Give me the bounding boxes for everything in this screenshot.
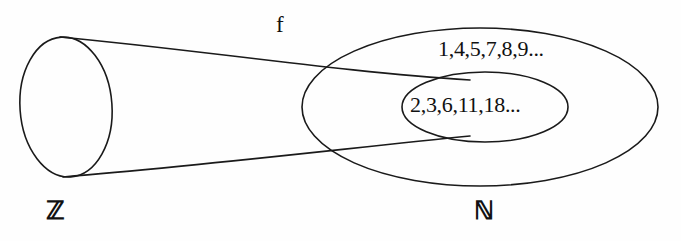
diagram-canvas [0,0,681,241]
domain-set-label: ℤ [46,196,65,225]
function-arrow-label: f [276,12,284,38]
funnel-line-top [60,37,470,80]
subset-elements-label: 2,3,6,11,18... [410,92,520,118]
set-mapping-diagram: f 1,4,5,7,8,9... 2,3,6,11,18... ℤ ℕ [0,0,681,241]
codomain-set-label: ℕ [474,196,494,225]
codomain-elements-label: 1,4,5,7,8,9... [438,36,544,62]
funnel-line-bottom [63,136,470,177]
domain-ellipse-face [15,34,117,180]
